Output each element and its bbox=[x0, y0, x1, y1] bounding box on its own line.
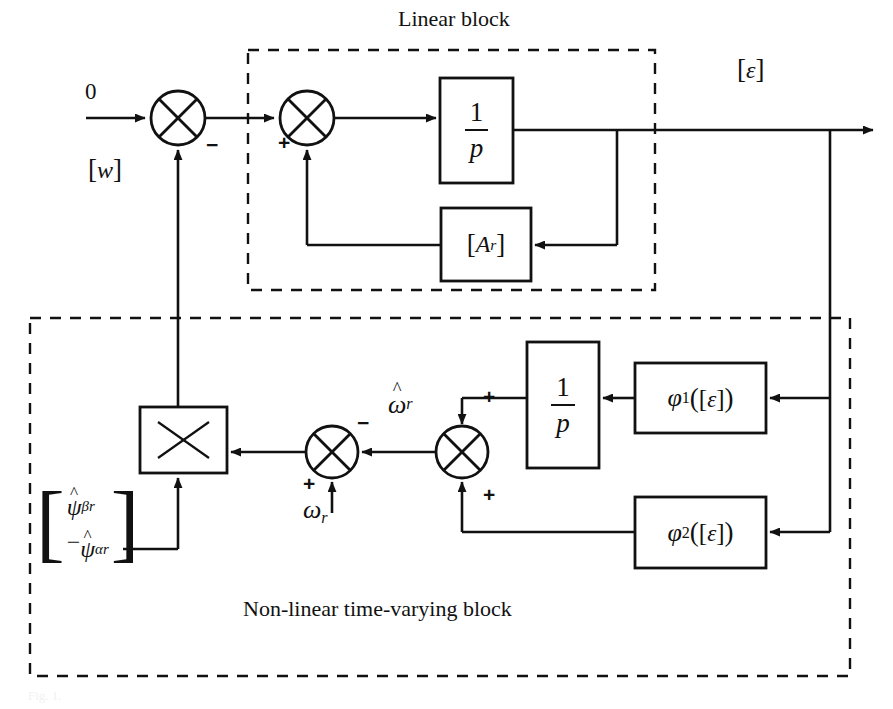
fraction-one-over-p-top: 1 p bbox=[465, 97, 489, 164]
sum-speed-error[interactable] bbox=[306, 426, 358, 478]
matrix-bracket-close: ] bbox=[111, 487, 140, 558]
matrix-rows: ^ ψ βr − ^ ψ αr bbox=[65, 486, 111, 559]
w-signal-label: [w] bbox=[88, 156, 122, 183]
phi1-base: φ bbox=[667, 383, 681, 413]
phi2-argument: ([ε]) bbox=[690, 517, 734, 548]
integrator-top-label: 1 p bbox=[440, 78, 513, 183]
ar-bracket-close: ] bbox=[496, 229, 505, 260]
omega-hat-stack: ^ ω bbox=[388, 382, 406, 415]
fraction-one-over-p-bottom: 1 p bbox=[551, 372, 575, 439]
psi-vector-matrix: [ ^ ψ βr − ^ ψ αr ] bbox=[36, 486, 139, 559]
sign-plus-speed-sum: + bbox=[303, 473, 315, 494]
sign-plus-adaptation-bottom: + bbox=[483, 484, 495, 505]
nonlinear-block-title: Non-linear time-varying block bbox=[243, 598, 512, 620]
omega-hat-base: ω bbox=[388, 395, 406, 415]
w-symbol: w bbox=[97, 157, 113, 183]
denominator-top: p bbox=[465, 129, 489, 164]
matrix-row-0: ^ ψ βr bbox=[67, 486, 109, 517]
psi-beta-base: ψ bbox=[67, 498, 82, 517]
phi2-subscript: 2 bbox=[682, 524, 690, 542]
psi-alpha-minus-sign: − bbox=[67, 529, 81, 555]
phi-2-label: φ2([ε]) bbox=[635, 497, 766, 568]
integrator-bottom-label: 1 p bbox=[527, 342, 599, 468]
epsilon-output-label: [ε] bbox=[737, 56, 764, 83]
figure-caption: Fig. 1. bbox=[28, 688, 62, 704]
omega-subscript: r bbox=[321, 509, 327, 526]
sign-minus-outer-sum: − bbox=[206, 134, 218, 155]
linear-block-title: Linear block bbox=[398, 8, 510, 30]
matrix-row-1: − ^ ψ αr bbox=[67, 529, 109, 560]
epsilon-bracket-open: [ bbox=[737, 54, 746, 84]
ar-bracket-open: [ bbox=[467, 229, 476, 260]
sum-outer-error[interactable] bbox=[151, 91, 205, 145]
phi-1-label: φ1([ε]) bbox=[635, 363, 766, 433]
omega-hat-subscript: r bbox=[406, 395, 412, 412]
numerator-top: 1 bbox=[465, 97, 489, 129]
psi-alpha-stack: ^ ψ bbox=[80, 529, 95, 559]
ar-base: A bbox=[476, 231, 491, 258]
sign-plus-linear-sum: + bbox=[278, 132, 290, 153]
psi-beta-subscript: βr bbox=[82, 498, 95, 514]
sum-adaptation[interactable] bbox=[436, 426, 488, 478]
omega-base: ω bbox=[303, 495, 321, 524]
matrix-bracket-open: [ bbox=[36, 487, 65, 558]
omega-r-hat-label: ^ ω r bbox=[388, 382, 413, 415]
phi2-base: φ bbox=[667, 518, 681, 548]
input-zero-label: 0 bbox=[85, 80, 97, 103]
w-bracket-close: ] bbox=[113, 154, 122, 184]
sign-plus-adaptation-top: + bbox=[483, 386, 495, 407]
phi1-subscript: 1 bbox=[682, 389, 690, 407]
block-diagram-figure: Linear block Non-linear time-varying blo… bbox=[0, 0, 893, 709]
denominator-bottom: p bbox=[551, 404, 575, 439]
omega-r-label: ωr bbox=[303, 497, 328, 526]
psi-beta-stack: ^ ψ bbox=[67, 486, 82, 516]
w-bracket-open: [ bbox=[88, 154, 97, 184]
psi-alpha-subscript: αr bbox=[95, 541, 109, 557]
psi-alpha-base: ψ bbox=[80, 540, 95, 559]
epsilon-bracket-close: ] bbox=[755, 54, 764, 84]
numerator-bottom: 1 bbox=[551, 372, 575, 404]
phi1-argument: ([ε]) bbox=[690, 383, 734, 414]
sign-minus-speed-sum: − bbox=[357, 412, 369, 433]
a-r-label: [Ar] bbox=[441, 208, 531, 281]
